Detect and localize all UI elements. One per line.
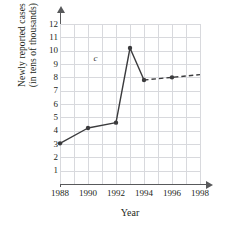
x-axis-tick-label: 1998 — [191, 188, 209, 198]
series-line-reported-cases-observed — [60, 48, 144, 143]
line-chart: Newly reported cases (in tens of thousan… — [0, 0, 225, 235]
x-axis-tick-label: 1994 — [135, 188, 153, 198]
plot-area: c — [60, 24, 200, 184]
y-axis-tick-label: 7 — [36, 86, 58, 95]
data-point-marker — [128, 46, 132, 50]
y-axis-tick-labels: 123456789101112 — [32, 24, 58, 184]
data-point-marker — [114, 120, 118, 124]
annotation-c: c — [93, 53, 97, 63]
gridline-vertical — [200, 24, 201, 184]
series-layer — [60, 24, 200, 184]
data-point-marker — [86, 126, 90, 130]
x-axis-tick-label: 1992 — [107, 188, 125, 198]
x-axis-line — [60, 184, 210, 185]
y-axis-tick-label: 9 — [36, 60, 58, 69]
y-axis-tick-label: 6 — [36, 100, 58, 109]
x-axis-tick-labels: 198819901992199419961998 — [60, 188, 210, 202]
y-axis-tick-label: 2 — [36, 153, 58, 162]
y-axis-tick-label: 3 — [36, 140, 58, 149]
y-axis-tick-label: 11 — [36, 33, 58, 42]
data-point-marker — [58, 141, 62, 145]
y-axis-title-line-1: Newly reported cases — [17, 0, 28, 125]
y-axis-arrow-icon — [57, 6, 65, 13]
y-axis-tick-label: 1 — [36, 166, 58, 175]
x-axis-tick-label: 1996 — [163, 188, 181, 198]
x-axis-tick-label: 1990 — [79, 188, 97, 198]
data-point-marker — [170, 75, 174, 79]
x-axis-tick-label: 1988 — [51, 188, 69, 198]
y-axis-tick-label: 5 — [36, 113, 58, 122]
x-axis-title: Year — [60, 207, 200, 218]
y-axis-tick-label: 4 — [36, 126, 58, 135]
y-axis-tick-label: 8 — [36, 73, 58, 82]
y-axis-tick-label: 12 — [36, 20, 58, 29]
y-axis-tick-label: 10 — [36, 46, 58, 55]
